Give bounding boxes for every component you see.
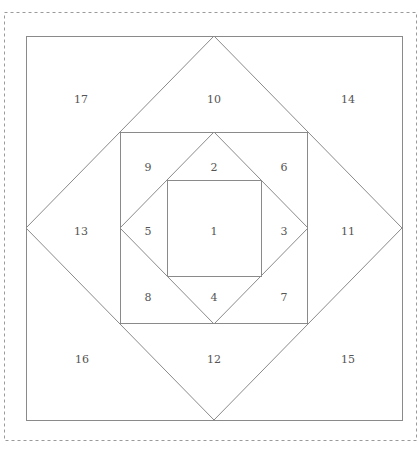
piece-label-4: 4: [211, 291, 218, 304]
piece-label-9: 9: [145, 161, 152, 174]
piece-label-8: 8: [145, 291, 152, 304]
piece-label-1: 1: [211, 225, 218, 238]
piece-label-12: 12: [207, 353, 221, 366]
piece-label-10: 10: [207, 93, 221, 106]
piece-labels: 1234567891011121314151617: [74, 93, 355, 366]
piece-label-2: 2: [211, 161, 218, 174]
piece-label-14: 14: [341, 93, 355, 106]
piece-label-7: 7: [281, 291, 288, 304]
piece-label-15: 15: [341, 353, 355, 366]
piece-label-17: 17: [74, 93, 88, 106]
piecing-diagram: 1234567891011121314151617: [0, 0, 418, 451]
piece-label-6: 6: [281, 161, 288, 174]
piece-label-13: 13: [74, 225, 88, 238]
piece-label-11: 11: [341, 225, 355, 238]
piece-label-16: 16: [75, 353, 89, 366]
piece-label-3: 3: [281, 225, 288, 238]
piece-label-5: 5: [145, 225, 152, 238]
